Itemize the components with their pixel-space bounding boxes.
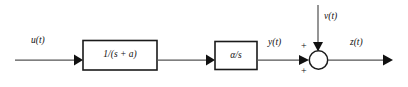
block-diagram-canvas: 1/(s + a) α/s u(t) y(t) v(t) z(t) + + [0,0,408,87]
arrowhead-output [383,55,393,66]
summing-junction-sign-top: + [301,41,307,51]
signal-label-disturbance-v: v(t) [324,12,337,22]
block-label-integrator: α/s [215,51,257,61]
signal-label-intermediate-y: y(t) [268,38,281,48]
arrowhead-into-block2 [206,55,215,66]
arrowhead-into-sum-left [299,55,309,65]
block-label-first-order: 1/(s + a) [83,50,157,60]
summing-junction-circle [309,51,327,69]
diagram-vector-layer [0,0,408,87]
summing-junction-sign-bottom: + [301,66,307,76]
arrowhead-into-block1 [74,55,83,66]
signal-label-input-u: u(t) [31,36,45,46]
signal-label-output-z: z(t) [350,38,363,48]
